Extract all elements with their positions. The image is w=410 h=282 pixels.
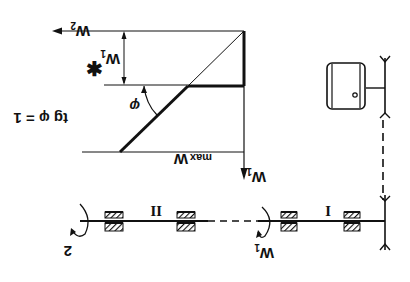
- angle-arc-arrow-icon: [141, 86, 147, 93]
- angle-label: φ: [129, 98, 140, 115]
- dimension-arrow-down-icon: [122, 77, 127, 85]
- w-max-label-sub: max: [189, 152, 212, 164]
- star-symbol: ✱: [86, 58, 103, 80]
- w2-label-sub: 2: [70, 20, 76, 31]
- w1-axis-label-sub: 1: [246, 166, 252, 177]
- shaft-2: II 2: [64, 203, 208, 260]
- characteristic-diagonal: [120, 86, 188, 152]
- motor: [327, 63, 385, 109]
- dimension-arrow-up-icon: [122, 31, 127, 39]
- shaft-1-rotation-label: W: [259, 245, 274, 262]
- diagonal-reference: [188, 31, 244, 86]
- shaft-1-label: I: [325, 203, 331, 219]
- w2-axis-arrow-icon: [52, 28, 62, 35]
- shaft-1-rotation-label-sub: 1: [254, 242, 260, 253]
- shaft-2-rotation-label: 2: [64, 243, 72, 260]
- w1-star-label: W: [105, 51, 120, 68]
- characteristic-graph: W 2 W 1 ✱ φ tg φ = 1 max W W 1: [14, 20, 267, 186]
- shaft-1: I W 1: [254, 203, 385, 262]
- angle-arc: [144, 86, 157, 115]
- w2-label: W: [75, 23, 90, 40]
- tg-formula: tg φ = 1: [14, 110, 69, 127]
- w-max-label: W: [173, 151, 188, 168]
- shaft-2-label: II: [150, 203, 162, 219]
- drive-diagram: W 2 W 1 ✱ φ tg φ = 1 max W W 1: [0, 0, 410, 282]
- w1-axis-label: W: [251, 169, 266, 186]
